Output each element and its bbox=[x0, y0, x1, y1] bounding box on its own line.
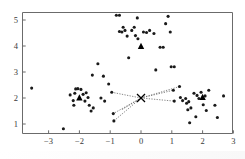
data-point bbox=[188, 121, 191, 124]
data-point bbox=[192, 92, 195, 95]
data-point bbox=[222, 94, 225, 97]
data-point bbox=[134, 34, 137, 37]
data-point bbox=[189, 106, 192, 109]
data-point bbox=[130, 29, 133, 32]
x-tick-label: 2 bbox=[200, 136, 204, 146]
neighbor-spoke bbox=[113, 98, 141, 114]
x-tick-label: −2 bbox=[75, 136, 84, 146]
data-point bbox=[103, 100, 106, 103]
plot-canvas: −3−2−1012312345 bbox=[0, 0, 245, 159]
data-point bbox=[72, 104, 75, 107]
y-tick-label: 3 bbox=[14, 67, 18, 77]
data-point bbox=[170, 65, 173, 68]
x-tick-label: 1 bbox=[170, 136, 174, 146]
data-point bbox=[142, 30, 145, 33]
data-point bbox=[72, 99, 75, 102]
x-tick-label: −1 bbox=[106, 136, 115, 146]
data-point bbox=[186, 108, 189, 111]
data-point bbox=[91, 74, 94, 77]
data-point bbox=[79, 88, 82, 91]
data-point bbox=[202, 103, 205, 106]
scatter-plot-figure: −3−2−1012312345 bbox=[0, 0, 245, 159]
neighbor-spoke bbox=[141, 87, 180, 98]
data-point bbox=[86, 96, 89, 99]
data-point bbox=[184, 97, 187, 100]
data-point bbox=[181, 99, 184, 102]
cluster-centroid-marker bbox=[76, 94, 82, 100]
data-point bbox=[73, 92, 76, 95]
neighbor-spoke bbox=[122, 98, 141, 110]
data-point bbox=[216, 116, 219, 119]
data-point bbox=[88, 104, 91, 107]
data-point bbox=[196, 94, 199, 97]
data-point bbox=[99, 96, 102, 99]
neighbor-spoke bbox=[112, 92, 141, 98]
data-point bbox=[154, 68, 157, 71]
x-tick-label: 0 bbox=[139, 136, 143, 146]
data-point bbox=[148, 29, 151, 32]
data-point bbox=[30, 87, 33, 90]
data-point bbox=[112, 112, 115, 115]
data-point bbox=[152, 32, 155, 35]
data-point bbox=[169, 30, 172, 33]
y-tick-label: 5 bbox=[14, 15, 18, 25]
neighbor-spoke bbox=[141, 90, 173, 98]
data-point bbox=[167, 15, 170, 18]
data-point bbox=[205, 109, 208, 112]
data-point bbox=[96, 62, 99, 65]
data-point bbox=[85, 91, 88, 94]
x-tick-label: −3 bbox=[44, 136, 53, 146]
data-point bbox=[69, 93, 72, 96]
data-point bbox=[200, 91, 203, 94]
cluster-centroid-marker bbox=[138, 43, 144, 49]
y-tick-label: 4 bbox=[14, 41, 19, 51]
data-point bbox=[102, 75, 105, 78]
data-point bbox=[107, 82, 110, 85]
y-tick-label: 1 bbox=[14, 119, 18, 129]
data-point bbox=[172, 89, 175, 92]
data-point bbox=[162, 46, 165, 49]
data-point bbox=[207, 89, 210, 92]
data-point bbox=[173, 100, 176, 103]
data-point bbox=[126, 35, 129, 38]
data-point bbox=[164, 22, 167, 25]
data-point bbox=[178, 85, 181, 88]
data-point bbox=[145, 31, 148, 34]
data-point bbox=[127, 56, 130, 59]
data-point bbox=[62, 127, 65, 130]
data-point bbox=[194, 115, 197, 118]
data-point bbox=[123, 29, 126, 32]
data-point bbox=[173, 65, 176, 68]
data-point bbox=[82, 93, 85, 96]
data-point bbox=[110, 91, 113, 94]
data-point bbox=[136, 37, 139, 40]
data-point bbox=[122, 26, 125, 29]
x-tick-label: 3 bbox=[231, 136, 235, 146]
page-edge-artifact bbox=[0, 151, 245, 159]
plot-frame bbox=[23, 13, 233, 134]
data-point bbox=[92, 106, 95, 109]
data-point bbox=[115, 14, 118, 17]
data-point bbox=[90, 109, 93, 112]
data-point bbox=[187, 100, 190, 103]
data-point bbox=[76, 87, 79, 90]
data-point bbox=[112, 119, 115, 122]
data-point bbox=[159, 46, 162, 49]
data-point bbox=[213, 104, 216, 107]
y-tick-label: 2 bbox=[14, 93, 18, 103]
data-point bbox=[118, 14, 121, 17]
data-point bbox=[136, 16, 139, 19]
data-point bbox=[133, 26, 136, 29]
neighbor-spoke bbox=[141, 98, 174, 101]
data-point bbox=[83, 100, 86, 103]
data-point bbox=[120, 30, 123, 33]
data-point bbox=[179, 96, 182, 99]
